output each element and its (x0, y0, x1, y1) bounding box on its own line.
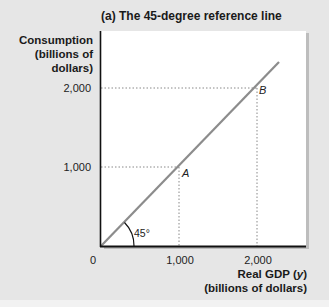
y-tick-2000: 2,000 (63, 82, 91, 94)
x-axis-label: Real GDP (y) (238, 268, 308, 280)
point-a-label: A (181, 167, 189, 179)
y-tick-1000: 1,000 (63, 161, 91, 173)
point-b-label: B (259, 84, 266, 96)
y-axis-label-line-2: (billions of (35, 48, 93, 60)
chart: (a) The 45-degree reference line Consump… (0, 0, 329, 307)
x-axis-label-text: Real GDP ( (238, 268, 297, 280)
x-axis-units: (billions of dollars) (204, 282, 307, 294)
x-tick-1000: 1,000 (166, 254, 194, 266)
x-tick-0: 0 (90, 254, 96, 266)
x-tick-2000: 2,000 (244, 254, 272, 266)
y-axis-label-line-3: dollars) (51, 62, 93, 74)
chart-title: (a) The 45-degree reference line (101, 9, 282, 23)
angle-label: 45° (134, 227, 150, 239)
x-axis-label-close: ) (303, 268, 307, 280)
y-axis-label-line-1: Consumption (19, 34, 93, 46)
